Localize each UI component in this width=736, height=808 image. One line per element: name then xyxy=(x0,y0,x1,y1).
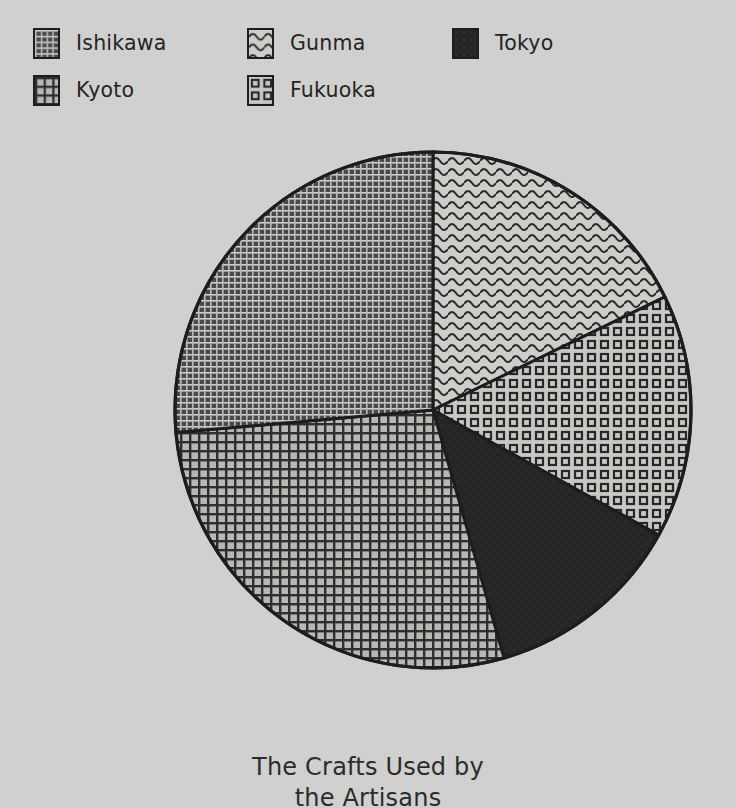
legend-item-fukuoka[interactable]: Fukuoka xyxy=(247,75,376,106)
legend-item-kyoto[interactable]: Kyoto xyxy=(33,75,134,106)
legend-label: Gunma xyxy=(290,33,365,54)
pattern-swatch-icon xyxy=(33,75,60,106)
chart-title-line-2: the Artisans xyxy=(0,783,736,808)
pattern-swatch-icon xyxy=(247,28,274,59)
legend-label: Ishikawa xyxy=(76,33,166,54)
chart-title-line-1: The Crafts Used by xyxy=(0,752,736,783)
chart-title: The Crafts Used by the Artisans xyxy=(0,752,736,808)
legend-item-gunma[interactable]: Gunma xyxy=(247,28,365,59)
legend-label: Fukuoka xyxy=(290,80,376,101)
legend-label: Tokyo xyxy=(495,33,553,54)
legend-item-tokyo[interactable]: Tokyo xyxy=(452,28,553,59)
pattern-swatch-icon xyxy=(452,28,479,59)
pie-slice-ishikawa xyxy=(175,152,433,432)
pattern-swatch-icon xyxy=(247,75,274,106)
legend-item-ishikawa[interactable]: Ishikawa xyxy=(33,28,166,59)
legend-label: Kyoto xyxy=(76,80,134,101)
legend: Ishikawa Kyoto Gunma Fukuoka xyxy=(0,28,736,120)
pattern-swatch-icon xyxy=(33,28,60,59)
